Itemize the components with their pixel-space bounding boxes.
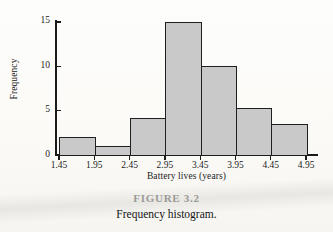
histogram-bar bbox=[271, 124, 308, 157]
histogram-bar bbox=[94, 146, 131, 156]
y-tick-label: 15 bbox=[34, 16, 50, 26]
histogram-bar bbox=[200, 66, 237, 156]
y-tick-mark bbox=[56, 110, 61, 111]
y-tick-label: 5 bbox=[34, 105, 50, 115]
y-tick-label: 10 bbox=[34, 61, 50, 71]
x-tick-label: 3.95 bbox=[219, 160, 253, 171]
figure-title: Frequency histogram. bbox=[0, 207, 333, 222]
figure-number: FIGURE 3.2 bbox=[0, 191, 333, 205]
y-tick-mark bbox=[56, 66, 61, 67]
scanned-page: 051015 1.451.952.452.953.453.954.454.95 … bbox=[0, 0, 333, 232]
x-tick-label: 2.95 bbox=[148, 160, 182, 171]
histogram-bar bbox=[130, 118, 167, 157]
y-tick-mark bbox=[56, 21, 61, 22]
x-tick-label: 4.45 bbox=[254, 160, 288, 171]
x-tick-label: 2.45 bbox=[113, 160, 147, 171]
x-tick-label: 3.45 bbox=[183, 160, 217, 171]
histogram-bar bbox=[59, 137, 96, 156]
x-tick-label: 1.45 bbox=[42, 160, 76, 171]
x-tick-label: 4.95 bbox=[289, 160, 323, 171]
x-axis-label: Battery lives (years) bbox=[55, 171, 318, 181]
y-axis-line bbox=[55, 20, 57, 156]
y-axis-label: Frequency bbox=[9, 39, 19, 119]
y-tick-label: 0 bbox=[34, 150, 50, 160]
frequency-histogram-chart: 051015 1.451.952.452.953.453.954.454.95 … bbox=[0, 0, 333, 190]
x-tick-label: 1.95 bbox=[77, 160, 111, 171]
figure-caption: FIGURE 3.2 Frequency histogram. bbox=[0, 191, 333, 222]
histogram-bar bbox=[236, 108, 273, 157]
histogram-bar bbox=[165, 22, 202, 157]
